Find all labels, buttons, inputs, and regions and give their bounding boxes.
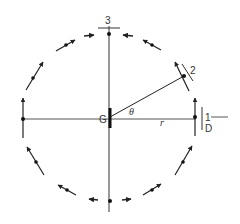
label-position-2: 2 xyxy=(190,65,196,76)
arrow-upper-left-3 xyxy=(84,35,94,36)
label-center-g: G xyxy=(99,114,107,125)
arrow-lower-left-3 xyxy=(89,199,98,200)
arrow-upper-right-3 xyxy=(123,35,133,36)
arrow-upper-left-1 xyxy=(26,62,43,90)
dot xyxy=(150,188,154,192)
radius-line-2 xyxy=(110,76,184,117)
bottom-point xyxy=(108,199,112,203)
label-position-3: 3 xyxy=(105,15,111,26)
dot xyxy=(34,160,38,164)
label-position-1: 1 xyxy=(205,112,211,123)
position-2-arrow xyxy=(175,62,189,91)
dot xyxy=(64,43,68,47)
label-position-1-d: D xyxy=(205,123,212,134)
dot xyxy=(31,76,35,80)
left-point xyxy=(21,117,25,121)
position-3-point xyxy=(107,32,111,36)
dot xyxy=(65,188,69,192)
label-r: r xyxy=(160,117,164,128)
position-1-point xyxy=(193,115,197,119)
dot xyxy=(181,160,185,164)
position-2-point xyxy=(182,74,186,78)
dot xyxy=(150,43,154,47)
label-theta: θ xyxy=(129,106,134,117)
arrow-lower-right-3 xyxy=(122,199,131,200)
diagram-canvas: 3 2 1 D G θ r xyxy=(0,0,240,224)
